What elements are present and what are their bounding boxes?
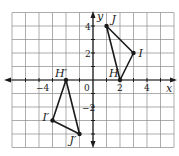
vertex-label: H′ bbox=[54, 67, 68, 80]
vertex-point bbox=[104, 24, 108, 28]
y-axis-up-arrow-icon bbox=[91, 11, 96, 18]
vertex-label: J′ bbox=[68, 134, 77, 147]
x-axis-left-arrow-icon bbox=[4, 78, 11, 83]
y-tick-label: −2 bbox=[82, 103, 95, 113]
vertex-point bbox=[131, 51, 135, 55]
axes bbox=[4, 11, 177, 148]
x-tick-label: 2 bbox=[117, 83, 123, 93]
y-tick-label: 2 bbox=[85, 49, 91, 59]
vertex-label: H bbox=[108, 67, 119, 80]
x-tick-label: −4 bbox=[36, 83, 50, 93]
y-axis-label: y bbox=[96, 10, 104, 23]
coordinate-plane: x y −402442−2HIJH′I′J′ bbox=[0, 0, 179, 156]
vertex-label: J bbox=[110, 13, 117, 26]
vertex-point bbox=[50, 118, 54, 122]
vertex-label: I bbox=[138, 47, 144, 60]
y-tick-label: 4 bbox=[85, 22, 91, 32]
y-axis-down-arrow-icon bbox=[91, 141, 96, 148]
vertex-point bbox=[77, 132, 81, 136]
x-tick-label: 0 bbox=[84, 83, 90, 93]
x-axis-label: x bbox=[166, 82, 173, 95]
x-tick-label: 4 bbox=[144, 83, 150, 93]
vertex-label: I′ bbox=[42, 111, 50, 124]
labels: x y −402442−2HIJH′I′J′ bbox=[36, 10, 173, 147]
